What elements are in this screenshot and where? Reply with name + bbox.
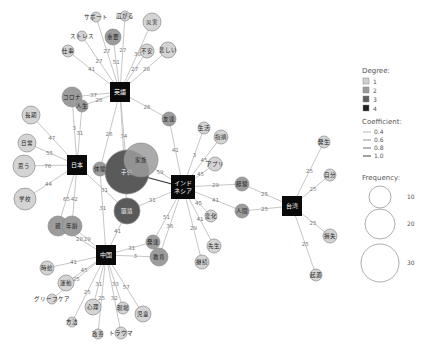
edge-label: 55 [46, 150, 53, 156]
edge-label: 25 [98, 295, 105, 301]
node-omou[interactable]: 思う [13, 155, 35, 177]
edge-label: 31 [128, 245, 135, 251]
edge-label: 27 [96, 58, 103, 64]
node-label: 長期 [25, 112, 37, 119]
edge-label: 27 [119, 47, 126, 53]
edge-label: 57 [123, 284, 130, 290]
edge-label: 34 [120, 133, 127, 139]
frequency-circle [369, 186, 391, 208]
degree-swatch [363, 78, 369, 84]
node-keiken[interactable]: 経験 [235, 177, 249, 191]
node-nichijou[interactable]: 日常 [18, 134, 36, 152]
node-stress[interactable]: ストレス [70, 31, 94, 41]
node-kazoku[interactable]: 家族 [124, 143, 158, 177]
node-jikan[interactable]: 時給 [40, 261, 54, 275]
node-label: 発生 [318, 138, 330, 146]
node-label: 悲しい [159, 46, 177, 53]
edge-label: 47 [48, 135, 55, 141]
node-label: 体験 [94, 165, 106, 173]
edge: 31 [99, 169, 106, 255]
node-nenrei[interactable]: 年齢 [62, 216, 82, 236]
hub-chugoku[interactable]: 中国 [96, 245, 116, 265]
hub-label: ネシア [174, 187, 192, 194]
hub-nihon[interactable]: 日本 [67, 155, 87, 175]
node-jinsei[interactable]: 人生 [76, 100, 88, 112]
edge-label: 26 [143, 104, 150, 110]
node-support[interactable]: サポート [84, 12, 108, 22]
node-kyouiku[interactable]: 教育 [150, 248, 168, 266]
hub-eigo[interactable]: 英語 [110, 82, 130, 102]
hub-taiwan[interactable]: 台湾 [282, 196, 302, 216]
node-label: 現場 [117, 304, 129, 312]
node-label: 方法 [66, 318, 78, 326]
edge-label: 29 [190, 225, 197, 231]
node-label: 生活 [198, 124, 210, 132]
node-label: 不安 [141, 47, 153, 55]
edge-label: 27 [131, 66, 138, 72]
edge-label: 51 [163, 214, 170, 220]
legend-degree-title: Degree: [362, 67, 390, 75]
legend-coefficient-title: Coefficient: [362, 118, 402, 126]
node-kankyou[interactable]: 環境 [114, 198, 140, 224]
degree-label: 4 [373, 105, 377, 112]
node-sensei[interactable]: 先生 [207, 239, 221, 253]
node-jidou[interactable]: 児童 [135, 306, 151, 322]
edge-label: 76 [44, 163, 51, 169]
node-shinri[interactable]: 心理 [85, 299, 101, 315]
legend-degree-items: 1234 [363, 78, 377, 112]
node-saigai[interactable]: 災害 [143, 13, 161, 31]
edge-label: 25 [261, 191, 268, 197]
node-kigen[interactable]: 起源 [310, 269, 322, 281]
node-grief[interactable]: グリーフケア [34, 294, 70, 304]
edge-label: 3 [133, 253, 137, 259]
node-shiteki[interactable]: 指摘 [214, 130, 228, 144]
node-label: グリーフケア [34, 295, 70, 303]
node-label: 自分 [324, 171, 336, 179]
node-bonus[interactable]: 損失 [323, 229, 337, 243]
node-choki[interactable]: 長期 [22, 106, 40, 124]
edge-line [100, 169, 106, 255]
node-jibun[interactable]: 自分 [324, 169, 336, 181]
node-label: トラウマ [109, 329, 133, 336]
node-henka[interactable]: 変化 [205, 210, 217, 222]
node-label: 広がる [116, 12, 134, 20]
node-shigoto[interactable]: 仕事 [62, 45, 74, 57]
node-hattatsu[interactable]: 発達 [146, 235, 160, 249]
node-fuan[interactable]: 不安 [140, 44, 154, 58]
frequency-circle [365, 209, 395, 239]
frequency-label: 20 [407, 220, 415, 227]
edge-label: 27 [103, 48, 110, 54]
node-kaizen[interactable]: 改善 [92, 329, 104, 339]
edge-label: 25 [84, 289, 91, 295]
node-seikatsu[interactable]: 生活 [198, 122, 210, 134]
node-katsudou[interactable]: 運動 [58, 275, 74, 291]
degree-label: 3 [373, 96, 377, 103]
co-occurrence-network: 2727302751412728372626263433147557644654… [0, 0, 422, 349]
hub-indonesia[interactable]: インドネシア [171, 175, 195, 199]
edge: 25 [98, 255, 106, 334]
node-label: 児童 [137, 310, 149, 318]
node-label: 先生 [208, 242, 220, 250]
node-genba[interactable]: 現場 [117, 302, 129, 314]
node-trauma[interactable]: トラウマ [109, 327, 133, 339]
node-hassei[interactable]: 発生 [318, 136, 330, 148]
node-houhou[interactable]: 方法 [66, 317, 78, 327]
node-label: 日常 [21, 139, 33, 147]
frequency-circle [361, 244, 399, 282]
node-hirogaru[interactable]: 広がる [116, 11, 134, 21]
degree-swatch [363, 105, 369, 111]
edge-label: 36 [166, 223, 173, 229]
node-label: 友達 [163, 115, 175, 123]
node-ningen[interactable]: 人間 [235, 204, 249, 218]
legend: Degree: 1234 Coefficient: 0.40.60.81.0 F… [361, 67, 415, 282]
edge-label: 25 [309, 220, 316, 226]
degree-swatch [363, 87, 369, 93]
coefficient-label: 0.6 [374, 136, 384, 143]
node-juuyou[interactable]: 重要 [105, 29, 121, 45]
node-label: アプリ [206, 161, 224, 167]
node-gakkou[interactable]: 学校 [14, 188, 36, 210]
edge-label: 31 [101, 187, 108, 193]
node-tomodachi[interactable]: 友達 [162, 112, 176, 126]
node-keizoku[interactable]: 継続 [195, 255, 209, 269]
node-label: 年齢 [66, 222, 78, 230]
